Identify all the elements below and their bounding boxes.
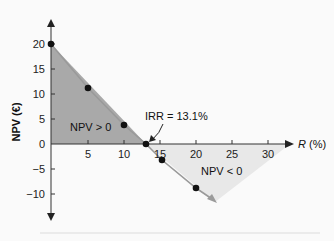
y-tick-15: 15: [33, 63, 45, 75]
x-axis-title: R (%): [298, 138, 326, 150]
point-10: [121, 122, 128, 129]
y-tick-labels: 20 15 10 5 0 −5 −10: [26, 38, 45, 200]
point-0-20: [48, 41, 55, 48]
npv-positive-label: NPV > 0: [70, 121, 111, 133]
y-tick-5: 5: [39, 113, 45, 125]
y-axis-arrow-down-icon: [47, 213, 55, 221]
x-tick-30: 30: [262, 148, 274, 160]
x-tick-5: 5: [85, 148, 91, 160]
y-axis-arrow-up-icon: [47, 19, 55, 27]
y-tick-10: 10: [33, 88, 45, 100]
point-20: [193, 185, 200, 192]
npv-negative-label: NPV < 0: [201, 165, 242, 177]
y-tick-neg10: −10: [26, 188, 45, 200]
npv-chart: 20 15 10 5 0 −5 −10 5 10 15 20 25 30 IRR…: [0, 0, 334, 241]
x-axis-arrow-icon: [285, 140, 294, 148]
x-tick-25: 25: [226, 148, 238, 160]
irr-annotation: IRR = 13.1%: [145, 110, 208, 122]
point-5: [85, 85, 92, 92]
x-tick-20: 20: [190, 148, 202, 160]
y-tick-20: 20: [33, 38, 45, 50]
irr-arrowhead-icon: [149, 135, 156, 142]
y-axis-title: NPV (€): [10, 102, 22, 141]
x-tick-10: 10: [118, 148, 130, 160]
point-irr: [143, 141, 150, 148]
irr-annotation-arrow: [152, 124, 163, 140]
y-tick-0: 0: [39, 138, 45, 150]
point-15: [159, 157, 166, 164]
y-tick-neg5: −5: [32, 163, 45, 175]
